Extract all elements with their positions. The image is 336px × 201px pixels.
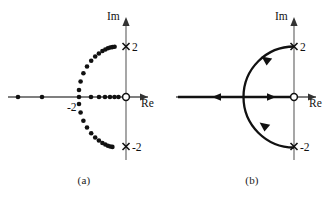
panel-a-plot: Im Re xyxy=(0,0,168,170)
root-locus-figure: Im Re xyxy=(0,0,336,201)
imaginary-axis-label-b: Im xyxy=(275,10,288,22)
panel-b-plot: Im Re 2 xyxy=(168,0,336,170)
real-axis-label-b: Re xyxy=(309,97,322,109)
pole-upper-label-b: 2 xyxy=(300,41,306,53)
upper-branch-locus-a xyxy=(77,45,117,93)
panel-b: Im Re 2 xyxy=(168,0,336,201)
direction-arrow-left-b xyxy=(212,93,221,100)
panel-a-caption: (a) xyxy=(0,174,168,186)
imaginary-axis-b xyxy=(290,17,297,160)
direction-arrow-right-b xyxy=(267,93,276,100)
real-axis-label-a: Re xyxy=(141,97,154,109)
imaginary-axis-a xyxy=(122,17,129,160)
direction-arrow-arc-upper-b xyxy=(262,57,273,66)
direction-arrow-arc-lower-b xyxy=(260,123,271,132)
imaginary-axis-label-a: Im xyxy=(107,10,120,22)
lower-branch-locus-a xyxy=(77,102,115,150)
panel-a: Im Re xyxy=(0,0,168,201)
pole-upper-label-a: 2 xyxy=(132,41,138,53)
real-axis-tick-label-a: -2 xyxy=(67,101,77,113)
zero-marker-origin-b xyxy=(291,94,298,101)
pole-lower-label-b: -2 xyxy=(300,141,310,153)
pole-lower-label-a: -2 xyxy=(132,141,142,153)
zero-marker-origin-a xyxy=(123,94,130,101)
panel-b-caption: (b) xyxy=(168,174,336,186)
